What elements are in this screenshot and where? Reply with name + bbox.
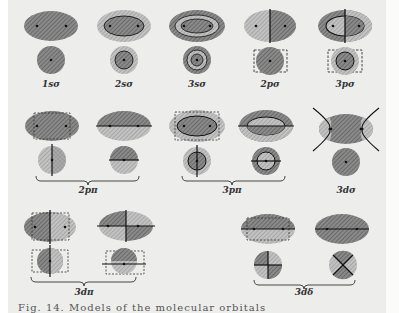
orbital-2s-sigma <box>97 10 151 74</box>
orbital-2p-pi <box>25 111 152 185</box>
label-3d-sigma: 3dσ <box>336 185 355 195</box>
orbital-3s-sigma <box>169 10 225 74</box>
orbital-3d-sigma <box>313 108 379 176</box>
orbital-3d-delta <box>241 214 369 289</box>
label-2s-sigma: 2sσ <box>115 79 133 89</box>
label-3d-delta: 3dδ <box>295 287 314 297</box>
label-3s-sigma: 3sσ <box>188 79 206 89</box>
label-1s-sigma: 1sσ <box>42 79 60 89</box>
label-3p-sigma: 3pσ <box>335 79 354 89</box>
label-3d-pi: 3dπ <box>74 287 93 297</box>
label-2p-pi: 2pπ <box>78 185 97 195</box>
orbital-1s-sigma <box>24 11 78 74</box>
label-2p-sigma: 2pσ <box>260 79 279 89</box>
orbital-3d-pi <box>24 210 155 286</box>
figure-caption: Fig. 14. Models of the molecular orbital… <box>18 302 266 313</box>
label-3p-pi: 3pπ <box>222 185 241 195</box>
orbital-3p-sigma <box>318 9 372 75</box>
orbital-2p-sigma <box>244 9 296 75</box>
orbital-3p-pi <box>169 110 294 185</box>
orbital-figure <box>0 0 399 313</box>
